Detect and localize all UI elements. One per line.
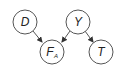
node-y-label: Y: [74, 15, 83, 29]
edge-y-t: [85, 31, 93, 42]
node-fa: F A: [40, 40, 64, 64]
node-y: Y: [66, 10, 90, 34]
node-t: T: [89, 40, 113, 64]
edge-y-fa: [62, 31, 70, 42]
node-d: D: [13, 10, 37, 34]
causal-diagram: D Y F A T: [0, 0, 124, 71]
node-d-label: D: [21, 15, 30, 29]
edge-d-fa: [33, 31, 42, 42]
node-fa-subscript: A: [53, 53, 58, 59]
